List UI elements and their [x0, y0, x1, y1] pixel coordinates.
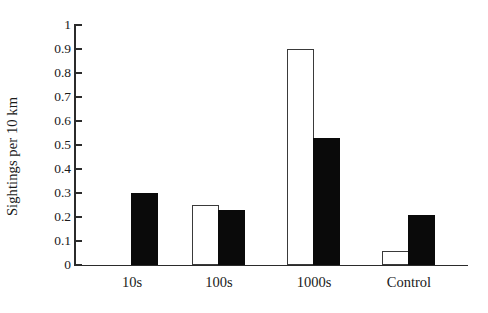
y-tick-mark: [75, 24, 82, 26]
y-tick-label: 0.4: [54, 160, 71, 177]
y-tick-label: 0: [64, 256, 71, 273]
y-tick-label: 0.8: [54, 64, 71, 81]
bar-black: [313, 138, 340, 265]
y-tick-label: 0.2: [54, 208, 71, 225]
bar-white: [382, 251, 409, 265]
y-tick-label: 0.5: [54, 136, 71, 153]
bar-black: [218, 210, 245, 265]
y-tick-mark: [75, 72, 82, 74]
y-tick-mark: [75, 264, 82, 266]
x-tick-label: Control: [364, 272, 454, 292]
y-tick-mark: [75, 96, 82, 98]
y-tick-mark: [75, 216, 82, 218]
y-tick-mark: [75, 240, 82, 242]
y-tick-label: 0.1: [54, 232, 71, 249]
bar-black: [408, 215, 435, 265]
bar-chart: Sightings per 10 km 00.10.20.30.40.50.60…: [0, 0, 488, 313]
y-tick-mark: [75, 192, 82, 194]
x-tick-label: 100s: [174, 272, 264, 292]
y-tick-label: 0.7: [54, 88, 71, 105]
y-tick-label: 1: [64, 16, 71, 33]
y-tick-mark: [75, 120, 82, 122]
y-tick-label: 0.3: [54, 184, 71, 201]
x-tick-label: 10s: [87, 272, 177, 292]
x-tick-label: 1000s: [269, 272, 359, 292]
y-tick-label: 0.6: [54, 112, 71, 129]
y-tick-mark: [75, 48, 82, 50]
bar-white: [287, 49, 314, 265]
plot-area: 00.10.20.30.40.50.60.70.80.91 10s100s100…: [0, 0, 488, 313]
bar-white: [192, 205, 219, 265]
y-tick-mark: [75, 144, 82, 146]
y-tick-mark: [75, 168, 82, 170]
y-tick-label: 0.9: [54, 40, 71, 57]
bar-black: [131, 193, 158, 265]
